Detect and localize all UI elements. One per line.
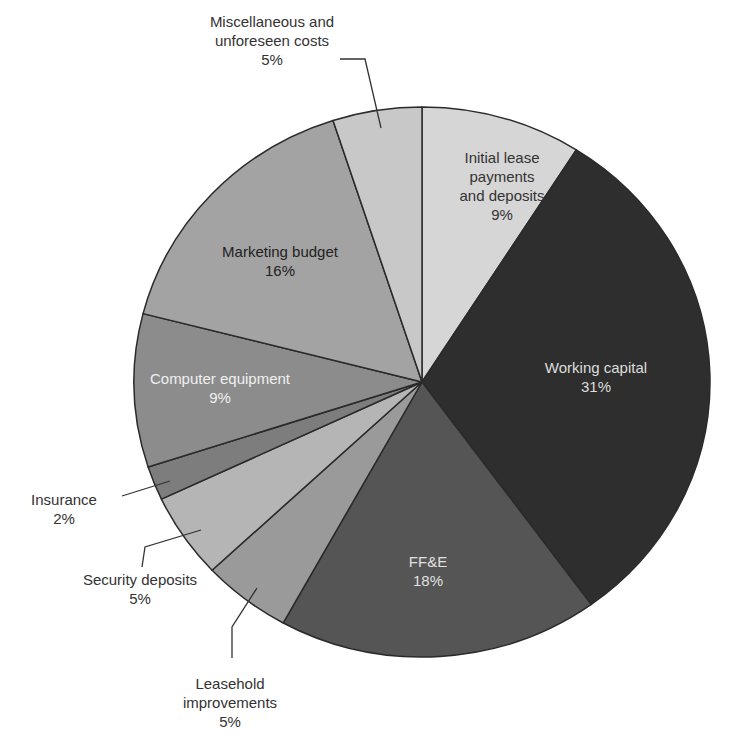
label-security-deposits: Security deposits5% (83, 571, 197, 607)
label-insurance: Insurance2% (31, 491, 97, 527)
label-leasehold-improvements: Leaseholdimprovements5% (183, 675, 277, 730)
pie-chart: Initial leasepaymentsand deposits9%Worki… (0, 0, 749, 752)
label-miscellaneous-and-unforeseen-costs: Miscellaneous andunforeseen costs5% (210, 13, 334, 68)
